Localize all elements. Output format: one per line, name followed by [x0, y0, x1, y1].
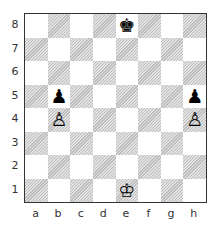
- square-b3[interactable]: [48, 132, 71, 156]
- square-h5[interactable]: ♟: [183, 85, 206, 109]
- square-d4[interactable]: [93, 108, 116, 132]
- square-e7[interactable]: [116, 38, 139, 62]
- square-c6[interactable]: [70, 61, 93, 85]
- square-h6[interactable]: [183, 61, 206, 85]
- square-g1[interactable]: [161, 179, 184, 203]
- square-d2[interactable]: [93, 155, 116, 179]
- file-label-h: h: [183, 207, 205, 220]
- square-b4[interactable]: ♙: [48, 108, 71, 132]
- rank-label-5: 5: [9, 89, 21, 102]
- square-h7[interactable]: [183, 38, 206, 62]
- file-label-g: g: [160, 207, 182, 220]
- rank-label-1: 1: [9, 183, 21, 196]
- square-c7[interactable]: [70, 38, 93, 62]
- square-f3[interactable]: [138, 132, 161, 156]
- square-b1[interactable]: [48, 179, 71, 203]
- rank-label-7: 7: [9, 42, 21, 55]
- square-d5[interactable]: [93, 85, 116, 109]
- black-king-icon[interactable]: ♚: [118, 16, 135, 35]
- square-b6[interactable]: [48, 61, 71, 85]
- square-c2[interactable]: [70, 155, 93, 179]
- square-e4[interactable]: [116, 108, 139, 132]
- square-a6[interactable]: [25, 61, 48, 85]
- square-a8[interactable]: [25, 14, 48, 38]
- black-pawn-icon[interactable]: ♟: [50, 87, 67, 106]
- square-g3[interactable]: [161, 132, 184, 156]
- square-f8[interactable]: [138, 14, 161, 38]
- square-e6[interactable]: [116, 61, 139, 85]
- square-a4[interactable]: [25, 108, 48, 132]
- square-d1[interactable]: [93, 179, 116, 203]
- white-pawn-icon[interactable]: ♙: [186, 110, 203, 129]
- rank-label-2: 2: [9, 159, 21, 172]
- square-f5[interactable]: [138, 85, 161, 109]
- file-label-a: a: [25, 207, 47, 220]
- square-b2[interactable]: [48, 155, 71, 179]
- square-d3[interactable]: [93, 132, 116, 156]
- file-label-d: d: [92, 207, 114, 220]
- square-e8[interactable]: ♚: [116, 14, 139, 38]
- square-f6[interactable]: [138, 61, 161, 85]
- square-g5[interactable]: [161, 85, 184, 109]
- square-d8[interactable]: [93, 14, 116, 38]
- chess-board: ♚♟♟♙♙♔: [24, 13, 207, 203]
- square-a2[interactable]: [25, 155, 48, 179]
- square-a3[interactable]: [25, 132, 48, 156]
- square-a5[interactable]: [25, 85, 48, 109]
- square-f4[interactable]: [138, 108, 161, 132]
- square-a7[interactable]: [25, 38, 48, 62]
- square-f7[interactable]: [138, 38, 161, 62]
- square-h1[interactable]: [183, 179, 206, 203]
- square-e5[interactable]: [116, 85, 139, 109]
- square-b8[interactable]: [48, 14, 71, 38]
- square-g6[interactable]: [161, 61, 184, 85]
- square-e1[interactable]: ♔: [116, 179, 139, 203]
- square-g7[interactable]: [161, 38, 184, 62]
- square-h4[interactable]: ♙: [183, 108, 206, 132]
- square-c5[interactable]: [70, 85, 93, 109]
- square-g2[interactable]: [161, 155, 184, 179]
- square-g8[interactable]: [161, 14, 184, 38]
- square-a1[interactable]: [25, 179, 48, 203]
- square-b5[interactable]: ♟: [48, 85, 71, 109]
- white-pawn-icon[interactable]: ♙: [50, 110, 67, 129]
- square-e2[interactable]: [116, 155, 139, 179]
- square-b7[interactable]: [48, 38, 71, 62]
- square-f2[interactable]: [138, 155, 161, 179]
- square-g4[interactable]: [161, 108, 184, 132]
- square-h8[interactable]: [183, 14, 206, 38]
- file-label-c: c: [70, 207, 92, 220]
- square-f1[interactable]: [138, 179, 161, 203]
- square-c8[interactable]: [70, 14, 93, 38]
- square-h3[interactable]: [183, 132, 206, 156]
- square-d7[interactable]: [93, 38, 116, 62]
- square-c1[interactable]: [70, 179, 93, 203]
- file-label-b: b: [47, 207, 69, 220]
- rank-label-8: 8: [9, 18, 21, 31]
- rank-label-4: 4: [9, 112, 21, 125]
- square-d6[interactable]: [93, 61, 116, 85]
- square-h2[interactable]: [183, 155, 206, 179]
- rank-label-6: 6: [9, 65, 21, 78]
- square-e3[interactable]: [116, 132, 139, 156]
- square-c4[interactable]: [70, 108, 93, 132]
- black-pawn-icon[interactable]: ♟: [186, 87, 203, 106]
- white-king-icon[interactable]: ♔: [118, 181, 135, 200]
- square-c3[interactable]: [70, 132, 93, 156]
- file-label-f: f: [138, 207, 160, 220]
- file-label-e: e: [115, 207, 137, 220]
- rank-label-3: 3: [9, 136, 21, 149]
